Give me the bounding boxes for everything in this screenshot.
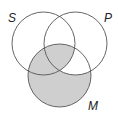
venn-diagram: S P M xyxy=(0,0,118,116)
label-m: M xyxy=(88,99,98,113)
label-s: S xyxy=(8,11,16,25)
label-p: P xyxy=(104,11,112,25)
